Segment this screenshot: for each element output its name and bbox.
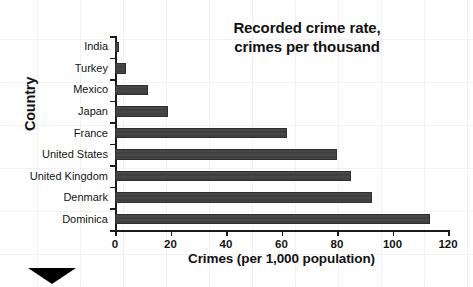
- bar-row: Japan: [115, 106, 448, 117]
- y-axis-tick: [110, 122, 115, 124]
- y-axis-tick: [110, 208, 115, 210]
- x-axis-tick: [115, 230, 117, 236]
- bar-france: [115, 128, 287, 139]
- y-axis-tick: [110, 79, 115, 81]
- y-tick-label-mexico: Mexico: [73, 84, 108, 95]
- bar-row: United Kingdom: [115, 171, 448, 182]
- bar-united-states: [115, 149, 337, 160]
- y-tick-label-turkey: Turkey: [75, 63, 108, 74]
- x-axis-title: Crimes (per 1,000 population): [115, 251, 448, 266]
- bar-turkey: [115, 63, 126, 74]
- y-axis-tick: [110, 36, 115, 38]
- bar-mexico: [115, 85, 148, 96]
- y-tick-label-india: India: [84, 41, 108, 52]
- y-tick-label-france: France: [74, 128, 108, 139]
- bar-japan: [115, 106, 168, 117]
- x-tick-label-0: 0: [112, 238, 118, 250]
- x-axis-tick: [226, 230, 228, 236]
- x-tick-label-80: 80: [331, 238, 344, 250]
- y-axis-tick: [110, 58, 115, 60]
- x-tick-label-120: 120: [438, 238, 457, 250]
- x-tick-label-100: 100: [383, 238, 402, 250]
- y-axis-tick: [110, 230, 115, 232]
- bar-india: [115, 42, 119, 53]
- bar-row: Turkey: [115, 63, 448, 74]
- x-tick-label-20: 20: [164, 238, 177, 250]
- y-axis-title: Country: [22, 58, 38, 150]
- y-axis-tick: [110, 187, 115, 189]
- y-tick-label-japan: Japan: [78, 106, 108, 117]
- bar-united-kingdom: [115, 171, 351, 182]
- bar-row: India: [115, 42, 448, 53]
- y-tick-label-dominica: Dominica: [62, 214, 108, 225]
- bar-dominica: [115, 214, 430, 225]
- y-axis-tick: [110, 101, 115, 103]
- bar-row: France: [115, 128, 448, 139]
- x-axis-tick: [393, 230, 395, 236]
- bar-row: Mexico: [115, 85, 448, 96]
- x-axis-tick: [337, 230, 339, 236]
- plot-area: IndiaTurkeyMexicoJapanFranceUnited State…: [115, 36, 448, 230]
- x-tick-label-40: 40: [220, 238, 233, 250]
- y-axis-tick: [110, 165, 115, 167]
- x-tick-label-60: 60: [275, 238, 288, 250]
- bar-denmark: [115, 192, 372, 203]
- bar-row: United States: [115, 149, 448, 160]
- chart-title-line-1: Recorded crime rate,: [182, 18, 432, 37]
- y-axis-tick: [110, 144, 115, 146]
- x-axis-tick: [171, 230, 173, 236]
- corner-triangle-marker: [28, 268, 76, 284]
- y-tick-label-united-states: United States: [42, 149, 108, 160]
- x-axis-tick: [282, 230, 284, 236]
- y-tick-label-denmark: Denmark: [63, 192, 108, 203]
- bar-chart-figure: Recorded crime rate, crimes per thousand…: [0, 0, 473, 287]
- bar-row: Dominica: [115, 214, 448, 225]
- bar-row: Denmark: [115, 192, 448, 203]
- y-tick-label-united-kingdom: United Kingdom: [30, 171, 108, 182]
- x-axis-tick: [448, 230, 450, 236]
